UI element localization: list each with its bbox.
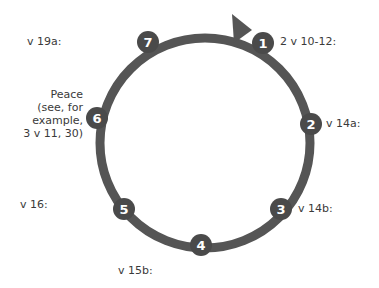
node-3: 3 bbox=[270, 198, 292, 220]
node-7: 7 bbox=[137, 31, 159, 53]
node-number: 5 bbox=[119, 202, 128, 217]
node-2-label: v 14a: bbox=[326, 117, 360, 130]
label-line: 3 v 11, 30) bbox=[23, 127, 83, 140]
node-1: 1 bbox=[252, 32, 274, 54]
node-4-label: v 15b: bbox=[118, 264, 153, 277]
label-line: example, bbox=[23, 114, 83, 127]
node-5-label: v 16: bbox=[20, 198, 48, 211]
node-3-label: v 14b: bbox=[298, 202, 333, 215]
label-line: Peace bbox=[23, 88, 83, 101]
node-6-label: Peace (see, for example, 3 v 11, 30) bbox=[23, 88, 83, 140]
arrow-head-icon bbox=[232, 14, 252, 43]
node-number: 6 bbox=[92, 111, 101, 126]
node-2: 2 bbox=[300, 113, 322, 135]
node-1-label: 2 v 10-12: bbox=[280, 35, 336, 48]
node-6: 6 bbox=[86, 107, 108, 129]
node-5: 5 bbox=[113, 198, 135, 220]
node-4: 4 bbox=[190, 234, 212, 256]
node-7-label: v 19a: bbox=[27, 35, 61, 48]
node-number: 7 bbox=[143, 35, 152, 50]
node-number: 3 bbox=[276, 202, 285, 217]
node-number: 1 bbox=[258, 36, 267, 51]
node-number: 2 bbox=[306, 117, 315, 132]
node-number: 4 bbox=[196, 238, 205, 253]
label-line: (see, for bbox=[23, 101, 83, 114]
